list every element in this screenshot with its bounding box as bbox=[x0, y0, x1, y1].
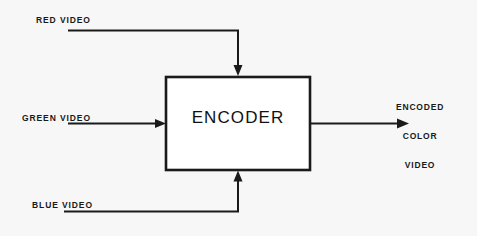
red-video-signal-path bbox=[68, 31, 243, 77]
green-video-arrowhead-icon bbox=[155, 119, 166, 128]
blue-video-arrowhead-icon bbox=[234, 171, 243, 182]
output-label-line-3: VIDEO bbox=[396, 161, 444, 171]
encoder-block-diagram: RED VIDEO GREEN VIDEO BLUE VIDEO ENCODED… bbox=[0, 0, 477, 236]
output-label-line-1: ENCODED bbox=[396, 103, 444, 113]
encoded-color-video-signal-path bbox=[310, 119, 409, 129]
red-video-label: RED VIDEO bbox=[36, 16, 91, 26]
blue-video-label: BLUE VIDEO bbox=[32, 201, 93, 211]
green-video-label: GREEN VIDEO bbox=[22, 114, 91, 124]
red-video-line bbox=[68, 31, 238, 70]
red-video-arrowhead-icon bbox=[234, 65, 243, 76]
output-label-line-2: COLOR bbox=[396, 132, 444, 142]
encoder-block-label: ENCODER bbox=[166, 108, 310, 128]
encoded-color-video-label: ENCODED COLOR VIDEO bbox=[396, 84, 444, 190]
